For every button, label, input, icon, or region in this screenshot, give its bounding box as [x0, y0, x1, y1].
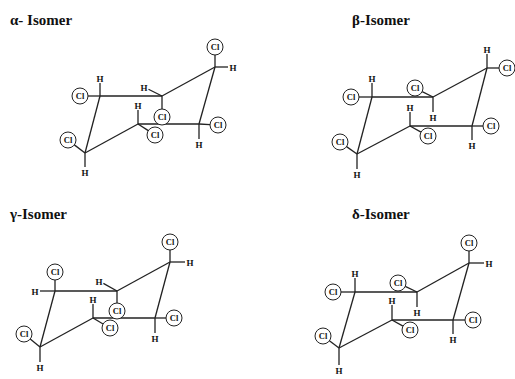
- ring-bond: [117, 262, 170, 291]
- substituent-bond: [422, 92, 433, 97]
- isomer-title: γ-Isomer: [9, 206, 67, 222]
- hydrogen-atom: H: [351, 269, 358, 279]
- ring-bond: [155, 262, 170, 318]
- hydrogen-atom: H: [151, 334, 158, 344]
- substituent-bond: [199, 124, 210, 125]
- substituent-bond: [392, 320, 403, 326]
- atom-label: Cl: [76, 91, 85, 101]
- atom-label: Cl: [211, 42, 220, 52]
- chlorine-atom: Cl: [16, 326, 32, 342]
- substituent-bond: [405, 286, 417, 292]
- hydrogen-atom: H: [81, 168, 88, 178]
- atom-label: H: [413, 308, 420, 318]
- substituent-bond: [30, 339, 40, 347]
- hydrogen-atom: H: [36, 363, 43, 373]
- atom-label: Cl: [20, 329, 29, 339]
- hydrogen-atom: H: [468, 141, 475, 151]
- atom-label: Cl: [394, 278, 403, 288]
- substituent-bond: [74, 145, 85, 153]
- chlorine-atom: Cl: [162, 234, 178, 250]
- atom-label: Cl: [465, 238, 474, 248]
- hydrogen-atom: H: [353, 170, 360, 180]
- ring-bond: [339, 292, 355, 348]
- atom-label: Cl: [158, 112, 167, 122]
- chlorine-atom: Cl: [390, 275, 406, 291]
- atom-label: Cl: [329, 287, 338, 297]
- atom-label: Cl: [503, 63, 512, 73]
- hydrogen-atom: H: [140, 83, 147, 93]
- atom-label: H: [151, 334, 158, 344]
- isomer-beta: β-IsomerHClClHHClClHHClClH: [332, 12, 515, 180]
- chlorine-atom: Cl: [210, 117, 226, 133]
- chlorine-atom: Cl: [343, 89, 359, 105]
- atom-label: Cl: [64, 135, 73, 145]
- hydrogen-atom: H: [406, 103, 413, 113]
- isomer-gamma: γ-IsomerClHHClClHClHHClClH: [9, 206, 194, 373]
- substituent-bond: [347, 147, 357, 154]
- hydrogen-atom: H: [388, 296, 395, 306]
- hydrogen-atom: H: [195, 140, 202, 150]
- atom-label: Cl: [51, 267, 60, 277]
- hydrogen-atom: H: [31, 287, 38, 297]
- chlorine-atom: Cl: [483, 118, 499, 134]
- ring-bond: [357, 97, 372, 154]
- atom-label: Cl: [411, 83, 420, 93]
- ring-bond: [162, 67, 215, 96]
- atom-label: H: [229, 63, 236, 73]
- atom-label: H: [483, 45, 490, 55]
- hydrogen-atom: H: [368, 74, 375, 84]
- hydrogen-atom: H: [89, 295, 96, 305]
- hydrogen-atom: H: [449, 335, 456, 345]
- chlorine-atom: Cl: [325, 284, 341, 300]
- hydrogen-atom: H: [429, 113, 436, 123]
- atom-label: H: [140, 83, 147, 93]
- atom-label: H: [36, 363, 43, 373]
- isomer-title: β-Isomer: [352, 12, 410, 28]
- atom-label: Cl: [166, 237, 175, 247]
- atom-label: H: [388, 296, 395, 306]
- chlorine-atom: Cl: [407, 80, 423, 96]
- diagram-canvas: α- IsomerHClHClClHClHHClClHβ-IsomerHClCl…: [0, 0, 515, 379]
- atom-label: H: [468, 141, 475, 151]
- hydrogen-atom: H: [134, 101, 141, 111]
- atom-label: Cl: [113, 306, 122, 316]
- isomer-alpha: α- IsomerHClHClClHClHHClClH: [10, 12, 237, 178]
- atom-label: H: [89, 295, 96, 305]
- hydrogen-atom: H: [186, 258, 193, 268]
- atom-label: H: [186, 258, 193, 268]
- ring-bond: [433, 68, 487, 97]
- ring-bond: [85, 96, 100, 153]
- ring-bond: [40, 318, 93, 347]
- hydrogen-atom: H: [335, 366, 342, 376]
- ring-bond: [339, 320, 392, 348]
- atom-label: Cl: [214, 120, 223, 130]
- isomer-diagram: α- IsomerHClHClClHClHHClClHβ-IsomerHClCl…: [0, 0, 515, 379]
- chlorine-atom: Cl: [47, 264, 63, 280]
- chlorine-atom: Cl: [109, 303, 125, 319]
- atom-label: H: [406, 103, 413, 113]
- chlorine-atom: Cl: [315, 328, 331, 344]
- atom-label: Cl: [336, 137, 345, 147]
- hydrogen-atom: H: [95, 277, 102, 287]
- atom-label: Cl: [319, 331, 328, 341]
- substituent-bond: [148, 89, 162, 96]
- atom-label: Cl: [170, 313, 179, 323]
- atom-label: H: [96, 74, 103, 84]
- hydrogen-atom: H: [483, 45, 490, 55]
- substituent-bond: [93, 318, 103, 324]
- atom-label: H: [31, 287, 38, 297]
- atom-label: Cl: [347, 92, 356, 102]
- atom-label: H: [353, 170, 360, 180]
- chlorine-atom: Cl: [154, 109, 170, 125]
- atom-label: H: [351, 269, 358, 279]
- isomer-delta: δ-IsomerHClClHClHClHHClClH: [315, 206, 493, 376]
- ring-bond: [85, 124, 138, 153]
- chlorine-atom: Cl: [147, 127, 163, 143]
- atom-label: Cl: [424, 131, 433, 141]
- chlorine-atom: Cl: [402, 322, 418, 338]
- substituent-bond: [103, 283, 117, 291]
- chlorine-atom: Cl: [465, 312, 481, 328]
- ring-bond: [40, 291, 55, 347]
- substituent-bond: [410, 126, 421, 132]
- hydrogen-atom: H: [96, 74, 103, 84]
